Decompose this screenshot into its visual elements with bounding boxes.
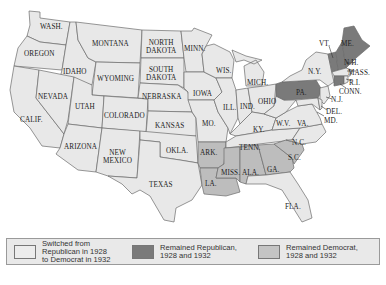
label-mass: MASS.: [348, 69, 370, 77]
label-okla: OKLA.: [166, 147, 188, 155]
label-ala: ALA.: [242, 169, 259, 177]
label-nj: N.J.: [331, 96, 343, 104]
label-north-dakota-line-2: DAKOTA: [146, 47, 176, 55]
legend-switched-line-3: to Democrat in 1932: [42, 256, 110, 264]
label-oregon: OREGON: [24, 50, 55, 58]
label-ohio: OHIO: [258, 98, 276, 106]
state-conn: [334, 76, 344, 86]
label-fla: FLA.: [285, 203, 301, 211]
label-vt: VT.: [319, 40, 330, 48]
label-texas: TEXAS: [149, 181, 173, 189]
label-utah: UTAH: [75, 103, 95, 111]
legend-item-switched: Switched from Republican in 1928 to Demo…: [14, 239, 110, 264]
label-ga: GA.: [267, 166, 279, 174]
label-north-dakota: NORTH DAKOTA: [146, 39, 176, 55]
legend-label-remained-democrat: Remained Democrat, 1928 and 1932: [286, 244, 358, 260]
label-new-mexico-line-2: MEXICO: [103, 157, 132, 165]
label-ind: IND.: [240, 103, 255, 111]
label-new-mexico-line-1: NEW: [103, 149, 132, 157]
label-new-mexico: NEW MEXICO: [103, 149, 132, 165]
label-wyoming: WYOMING: [97, 75, 134, 83]
label-arizona: ARIZONA: [64, 143, 97, 151]
state-ri: [344, 76, 348, 84]
legend-item-remained-democrat: Remained Democrat, 1928 and 1932: [258, 239, 358, 264]
legend-label-switched: Switched from Republican in 1928 to Demo…: [42, 240, 110, 264]
legend-item-remained-republican: Remained Republican, 1928 and 1932: [132, 239, 237, 264]
label-iowa: IOWA: [193, 90, 212, 98]
label-idaho: IDAHO: [63, 68, 87, 76]
legend-swatch-remained-democrat: [258, 245, 280, 259]
map-legend: Switched from Republican in 1928 to Demo…: [6, 238, 380, 265]
label-south-dakota-line-2: DAKOTA: [146, 74, 176, 82]
label-montana: MONTANA: [92, 40, 129, 48]
label-sc: S.C.: [288, 154, 301, 162]
label-south-dakota: SOUTH DAKOTA: [146, 66, 176, 82]
label-me: ME.: [341, 40, 354, 48]
label-mich: MICH.: [247, 79, 268, 87]
label-minn: MINN.: [184, 45, 205, 53]
label-wv: W.V.: [276, 120, 290, 128]
label-wash: WASH.: [40, 23, 63, 31]
legend-label-remained-republican: Remained Republican, 1928 and 1932: [160, 244, 237, 260]
label-nevada: NEVADA: [38, 93, 68, 101]
label-ill: ILL.: [223, 104, 236, 112]
label-ny: N.Y.: [308, 68, 321, 76]
label-la: LA.: [205, 180, 217, 188]
label-ark: ARK.: [200, 149, 217, 157]
label-wis: WIS.: [216, 67, 231, 75]
label-miss: MISS.: [221, 169, 240, 177]
legend-swatch-switched: [14, 245, 36, 259]
legend-democrat-line-2: 1928 and 1932: [286, 252, 358, 260]
label-conn: CONN.: [339, 88, 362, 96]
label-nh: N.H.: [344, 59, 358, 67]
label-north-dakota-line-1: NORTH: [146, 39, 176, 47]
label-kansas: KANSAS: [155, 122, 184, 130]
label-va: VA.: [297, 120, 309, 128]
label-colorado: COLORADO: [104, 112, 145, 120]
label-ri: R.I.: [349, 79, 360, 87]
label-tenn: TENN.: [239, 144, 260, 152]
label-mo: MO.: [202, 120, 216, 128]
state-fla: [246, 172, 312, 222]
label-ky: KY.: [253, 126, 265, 134]
legend-swatch-remained-republican: [132, 245, 154, 259]
label-pa: PA.: [296, 89, 307, 97]
label-calif: CALIF.: [20, 116, 43, 124]
label-del: DEL.: [326, 108, 342, 116]
label-south-dakota-line-1: SOUTH: [146, 66, 176, 74]
label-nc: N.C.: [292, 139, 306, 147]
legend-republican-line-2: 1928 and 1932: [160, 252, 237, 260]
label-md: MD.: [324, 117, 338, 125]
label-nebraska: NEBRASKA: [142, 93, 182, 101]
